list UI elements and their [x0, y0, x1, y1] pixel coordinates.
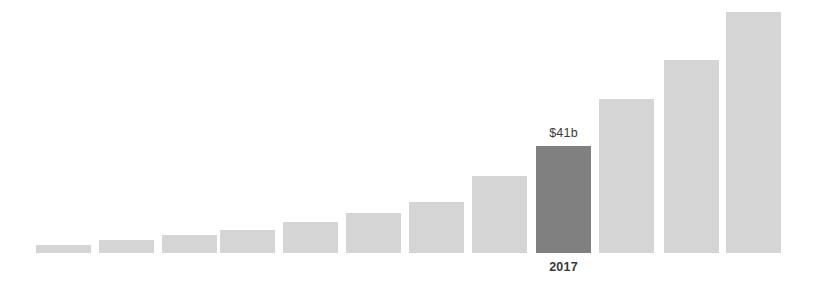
- bar: [664, 60, 719, 253]
- bar: [36, 245, 91, 253]
- bar: [409, 202, 464, 253]
- bar-value-label: $41b: [536, 126, 591, 140]
- bar-highlighted: [536, 146, 591, 253]
- bar: [220, 230, 275, 253]
- bar: [726, 12, 781, 253]
- bar: [99, 240, 154, 253]
- bar: [283, 222, 338, 253]
- bar-category-label: 2017: [536, 260, 591, 274]
- bar: [472, 176, 527, 253]
- bar: [346, 213, 401, 253]
- bar: [599, 99, 654, 253]
- bar-chart: $41b2017: [0, 0, 825, 287]
- chart-plot-area: $41b2017: [0, 0, 825, 287]
- bar: [162, 235, 217, 253]
